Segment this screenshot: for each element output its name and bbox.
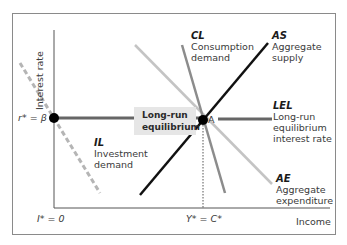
istar-label: I* = 0: [37, 213, 65, 224]
y-axis-label: Interest rate: [34, 30, 48, 110]
as-line2: supply: [272, 52, 322, 63]
callout-line1: Long-run: [142, 109, 196, 121]
cl-abbr: CL: [191, 30, 254, 41]
as-abbr: AS: [272, 30, 322, 41]
x-tick-istar: I* = 0: [37, 213, 65, 224]
lel-line1: Long-run: [273, 111, 332, 122]
lel-line2: equilibrium: [273, 122, 332, 133]
a-label: A: [208, 114, 215, 125]
lel-label: LEL Long-run equilibrium interest rate: [273, 100, 332, 144]
x-tick-ystar: Y* = C*: [186, 213, 222, 224]
rstar-label: r* = β: [18, 112, 47, 123]
lel-abbr: LEL: [273, 100, 332, 111]
as-label: AS Aggregate supply: [272, 30, 322, 63]
x-axis-label: Income: [296, 216, 331, 227]
il-curve: [20, 63, 100, 193]
il-label: IL Investment demand: [94, 137, 148, 170]
cl-line2: demand: [191, 52, 254, 63]
il-abbr: IL: [94, 137, 148, 148]
ae-line2: expenditure: [276, 195, 333, 206]
ae-label: AE Aggregate expenditure: [276, 173, 333, 206]
ae-abbr: AE: [276, 173, 333, 184]
y-tick-rstar: r* = β: [18, 112, 47, 123]
y-axis-label-text: Interest rate: [34, 51, 45, 110]
point-a-label: A: [208, 114, 215, 125]
callout-line2: equilibrium: [142, 121, 196, 133]
ae-line1: Aggregate: [276, 184, 333, 195]
as-line1: Aggregate: [272, 41, 322, 52]
lel-line3: interest rate: [273, 133, 332, 144]
cl-label: CL Consumption demand: [191, 30, 254, 63]
cl-line1: Consumption: [191, 41, 254, 52]
ystar-label: Y* = C*: [186, 213, 222, 224]
point-beta: [49, 113, 59, 123]
il-line1: Investment: [94, 148, 148, 159]
il-line2: demand: [94, 159, 148, 170]
long-run-equilibrium-callout: Long-run equilibrium: [134, 107, 196, 135]
income-label: Income: [296, 216, 331, 227]
